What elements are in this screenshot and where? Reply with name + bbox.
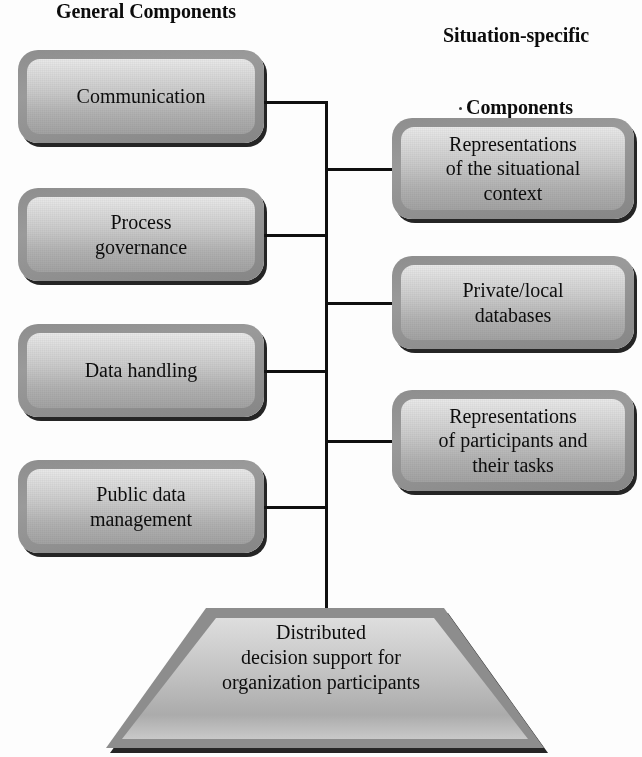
situation-heading-line-2-text: Components <box>466 96 573 118</box>
connector-public-data-management <box>264 506 328 509</box>
node-process-governance-body: Process governance <box>27 197 255 272</box>
connector-data-handling <box>264 370 328 373</box>
node-private-local-databases-body: Private/local databases <box>401 265 625 340</box>
node-representations-participants-tasks-body: Representations of participants and thei… <box>401 399 625 482</box>
node-communication-body: Communication <box>27 59 255 134</box>
situation-heading-line-1: Situation-specific <box>394 24 638 48</box>
node-data-handling-body: Data handling <box>27 333 255 408</box>
connector-representations-participants <box>325 440 393 443</box>
node-private-local-databases-label: Private/local databases <box>456 278 569 327</box>
stray-dot-mark <box>459 107 462 110</box>
connector-communication <box>264 101 328 104</box>
node-representations-situational-context-body: Representations of the situational conte… <box>401 127 625 210</box>
connector-process-governance <box>264 234 328 237</box>
node-representations-participants-tasks-label: Representations of participants and thei… <box>433 404 594 477</box>
situation-heading-line-2: Components <box>394 73 638 120</box>
node-representations-situational-context-label: Representations of the situational conte… <box>440 132 586 205</box>
node-data-handling-label: Data handling <box>79 358 204 382</box>
node-communication[interactable]: Communication <box>18 50 264 143</box>
node-public-data-management-label: Public data management <box>84 482 198 531</box>
node-public-data-management-body: Public data management <box>27 469 255 544</box>
node-representations-participants-tasks[interactable]: Representations of participants and thei… <box>392 390 634 491</box>
node-process-governance-label: Process governance <box>89 210 193 259</box>
node-communication-label: Communication <box>71 84 212 108</box>
node-distributed-decision-support[interactable]: Distributed decision support for organiz… <box>88 598 554 757</box>
connector-spine-vertical <box>325 101 328 611</box>
node-public-data-management[interactable]: Public data management <box>18 460 264 553</box>
node-data-handling[interactable]: Data handling <box>18 324 264 417</box>
node-process-governance[interactable]: Process governance <box>18 188 264 281</box>
diagram-canvas: General Components Situation-specific Co… <box>0 0 642 757</box>
general-components-heading: General Components <box>8 0 284 24</box>
trapezoid-shape <box>88 598 554 757</box>
node-private-local-databases[interactable]: Private/local databases <box>392 256 634 349</box>
node-representations-situational-context[interactable]: Representations of the situational conte… <box>392 118 634 219</box>
connector-representations-situational-context <box>325 168 393 171</box>
connector-private-local-databases <box>325 302 393 305</box>
